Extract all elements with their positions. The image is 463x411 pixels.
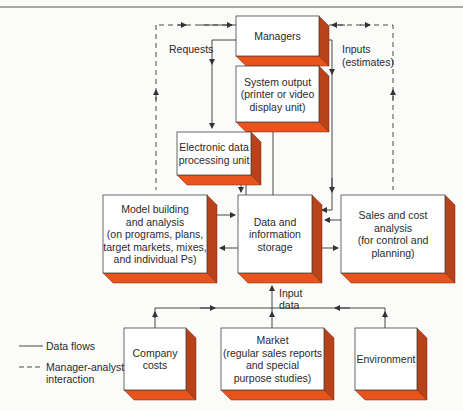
requests-line (212, 40, 236, 128)
box-label: target markets, mixes, (103, 241, 206, 253)
box-label: Sales and cost (359, 209, 428, 221)
box-sales: Sales and costanalysis(for control andpl… (341, 195, 455, 283)
box-side-face (319, 66, 329, 132)
box-label: Model building (121, 203, 189, 215)
box-model: Model buildingand analysis(on programs, … (103, 195, 217, 283)
box-label: and individual Ps) (114, 253, 197, 265)
requests-label: Requests (169, 43, 213, 55)
box-label: planning) (371, 247, 414, 259)
box-side-face (324, 328, 334, 400)
box-label: costs (143, 359, 168, 371)
input-bus (155, 308, 385, 328)
box-label: analysis (374, 222, 412, 234)
box-label: purpose studies) (234, 372, 312, 384)
inputs-label: Inputs (342, 43, 371, 55)
box-side-face (417, 328, 427, 400)
input-data-label-2: data (279, 299, 300, 311)
box-label: (for control and (358, 234, 429, 246)
box-system-output: System output(printer or videodisplay un… (236, 66, 329, 132)
box-side-face (186, 328, 196, 400)
legend-interaction: Manager-analyst (46, 361, 124, 373)
box-label: storage (257, 241, 292, 253)
box-bottom-face (221, 390, 334, 400)
box-label: (regular sales reports (223, 347, 322, 359)
box-label: Market (256, 334, 288, 346)
box-label: Data and (254, 216, 297, 228)
box-side-face (445, 195, 455, 283)
input-data-label: Input (279, 287, 302, 299)
box-label: information (249, 228, 301, 240)
box-managers: Managers (236, 16, 329, 66)
box-side-face (207, 195, 217, 283)
box-edp: Electronic dataprocessing unit (177, 132, 261, 185)
inputs-to-storage (322, 178, 332, 210)
box-label: (on programs, plans, (107, 228, 203, 240)
box-label: Company (133, 347, 179, 359)
box-bottom-face (236, 122, 329, 132)
box-bottom-face (236, 56, 329, 66)
box-environment: Environment (355, 328, 427, 400)
box-bottom-face (341, 273, 455, 283)
legend-interaction-2: interaction (46, 373, 95, 385)
box-label: display unit) (249, 101, 305, 113)
box-label: and special (246, 359, 299, 371)
box-bottom-face (177, 175, 261, 185)
box-costs: Companycosts (124, 328, 196, 400)
box-bottom-face (124, 390, 196, 400)
inputs-label-2: (estimates) (342, 56, 394, 68)
box-market: Market(regular sales reportsand specialp… (221, 328, 334, 400)
box-bottom-face (355, 390, 427, 400)
box-label: and analysis (126, 216, 184, 228)
box-label: Environment (357, 353, 416, 365)
box-bottom-face (103, 273, 217, 283)
diagram-canvas: ManagersSystem output(printer or videodi… (0, 0, 463, 411)
box-bottom-face (238, 273, 322, 283)
box-label: Electronic data (179, 141, 249, 153)
box-label: System output (244, 76, 311, 88)
box-label: processing unit (179, 154, 250, 166)
box-label: Managers (254, 30, 301, 42)
box-side-face (312, 195, 322, 283)
legend-data-flows: Data flows (46, 340, 95, 352)
box-storage: Data andinformationstorage (238, 195, 322, 283)
box-label: (printer or video (241, 88, 315, 100)
